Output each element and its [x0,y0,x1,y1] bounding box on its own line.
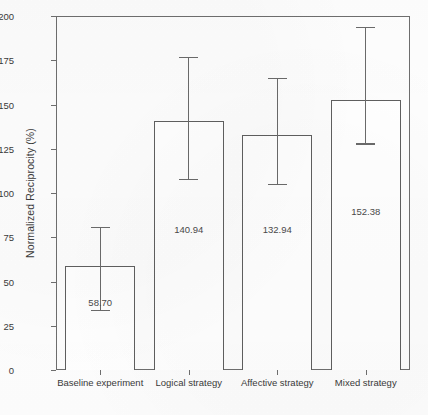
error-bar-cap-lower [91,310,110,311]
y-axis-title: Normalized Reciprocity (%) [24,16,40,370]
y-tick-label: 175 [0,55,14,66]
bar-group[interactable]: 140.94 [154,16,224,370]
x-tick-label: Logical strategy [155,377,222,388]
bar-group[interactable]: 152.38 [331,16,401,370]
x-tick-label: Mixed strategy [335,377,397,388]
x-tick-label: Affective strategy [241,377,314,388]
bar-value-label: 58.70 [88,297,112,308]
y-tick-label: 150 [0,99,14,110]
error-bar-cap-lower [179,179,198,180]
x-tick-mark [277,370,278,375]
error-bar-cap-upper [268,78,287,79]
y-tick-label: 125 [0,143,14,154]
error-bar-cap-upper [179,57,198,58]
error-bar-cap-upper [91,227,110,228]
bar-group[interactable]: 132.94 [242,16,312,370]
error-bar-line [188,57,189,179]
y-tick-label: 0 [0,365,14,376]
x-tick-mark [189,370,190,375]
y-tick-label: 25 [0,320,14,331]
y-tick-mark [51,370,56,371]
y-tick-label: 50 [0,276,14,287]
x-tick-mark [100,370,101,375]
y-tick-label: 200 [0,11,14,22]
error-bar-cap-lower [356,143,375,144]
error-bar-line [277,78,278,184]
bar-value-label: 140.94 [174,224,203,235]
y-tick-label: 75 [0,232,14,243]
x-tick-label: Baseline experiment [57,377,143,388]
bar-group[interactable]: 58.70 [65,16,135,370]
error-bar-cap-upper [356,27,375,28]
bars-layer: 58.70140.94132.94152.38 [56,16,410,370]
error-bar-line [365,27,366,144]
x-tick-mark [366,370,367,375]
bar-value-label: 152.38 [351,206,380,217]
error-bar-cap-lower [268,184,287,185]
figure-canvas: Normalized Reciprocity (%) 0255075100125… [0,0,428,415]
bar-value-label: 132.94 [263,224,292,235]
y-tick-label: 100 [0,188,14,199]
